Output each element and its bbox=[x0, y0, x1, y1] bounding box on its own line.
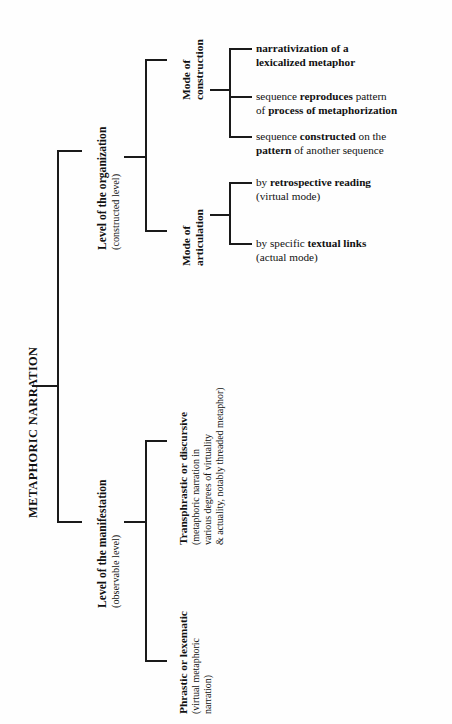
organization-stem-connector bbox=[124, 156, 146, 158]
leaf-4-l1b: retrospective reading bbox=[270, 176, 371, 188]
leaf-4-l2: (virtual mode) bbox=[256, 190, 320, 202]
leaf-2-l2a: of bbox=[256, 104, 268, 116]
transphrastic-sub1: (metaphoric narration in bbox=[190, 387, 202, 545]
node-transphrastic-or-discursive: Transphrastic or discursive (metaphoric … bbox=[177, 387, 226, 545]
leaf-3-l1b: constructed bbox=[300, 130, 356, 142]
mode-of-articulation-line2: articulation bbox=[193, 209, 206, 266]
level-of-manifestation-subtitle: (observable level) bbox=[110, 480, 122, 608]
phrastic-sub2: narration) bbox=[202, 611, 214, 714]
leaf-textual-links: by specific textual links (actual mode) bbox=[256, 236, 366, 265]
root-node-label: METAPHORIC NARRATION bbox=[26, 347, 41, 518]
level-of-manifestation-title: Level of the manifestation bbox=[96, 480, 110, 608]
leaf-narrativization-line1: narrativization of a bbox=[256, 42, 349, 54]
root-stem-connector bbox=[32, 385, 58, 387]
construction-arm-leaf-3 bbox=[229, 136, 252, 138]
manifestation-arm-to-transphrastic bbox=[145, 440, 167, 442]
organization-arm-to-articulation bbox=[145, 230, 167, 232]
leaf-retrospective-reading: by retrospective reading (virtual mode) bbox=[256, 175, 371, 204]
leaf-3-l1a: sequence bbox=[256, 130, 300, 142]
node-phrastic-or-lexematic: Phrastic or lexematic (virtual metaphori… bbox=[177, 611, 214, 714]
leaf-4-l1a: by bbox=[256, 176, 270, 188]
leaf-narrativization-line2: lexicalized metaphor bbox=[256, 56, 355, 68]
transphrastic-title: Transphrastic or discursive bbox=[177, 387, 190, 545]
manifestation-arm-to-phrastic bbox=[145, 660, 167, 662]
construction-bracket-vertical bbox=[229, 48, 231, 137]
articulation-bracket-vertical bbox=[229, 182, 231, 244]
root-bracket-vertical bbox=[57, 150, 59, 522]
leaf-2-l2b: process of metaphorization bbox=[268, 104, 397, 116]
organization-arm-to-construction bbox=[145, 59, 167, 61]
diagram-canvas: METAPHORIC NARRATION Level of the organi… bbox=[0, 0, 452, 724]
leaf-5-l2: (actual mode) bbox=[256, 251, 318, 263]
manifestation-bracket-vertical bbox=[145, 440, 147, 661]
node-level-of-organization: Level of the organization (constructed l… bbox=[96, 127, 122, 250]
transphrastic-sub3: & actuality, notably threaded metaphor) bbox=[214, 387, 226, 545]
leaf-sequence-constructed: sequence constructed on the pattern of a… bbox=[256, 129, 386, 158]
leaf-3-l2b: pattern bbox=[256, 144, 291, 156]
leaf-2-l1a: sequence bbox=[256, 90, 300, 102]
leaf-2-l1c: pattern bbox=[353, 90, 387, 102]
root-arm-to-organization bbox=[57, 150, 82, 152]
leaf-5-l1b: textual links bbox=[308, 237, 367, 249]
phrastic-title: Phrastic or lexematic bbox=[177, 611, 190, 714]
mode-of-construction-line2: construction bbox=[193, 39, 206, 100]
node-level-of-manifestation: Level of the manifestation (observable l… bbox=[96, 480, 122, 608]
construction-stem-connector bbox=[210, 89, 230, 91]
articulation-arm-leaf-1 bbox=[229, 182, 252, 184]
level-of-organization-subtitle: (constructed level) bbox=[110, 127, 122, 250]
construction-arm-leaf-1 bbox=[229, 48, 252, 50]
node-mode-of-articulation: Mode of articulation bbox=[180, 209, 207, 266]
leaf-3-l1c: on the bbox=[356, 130, 386, 142]
leaf-3-l2c: of another sequence bbox=[291, 144, 383, 156]
leaf-2-l1b: reproduces bbox=[300, 90, 353, 102]
leaf-5-l1a: by specific bbox=[256, 237, 308, 249]
node-mode-of-construction: Mode of construction bbox=[180, 39, 207, 100]
level-of-organization-title: Level of the organization bbox=[96, 127, 110, 250]
phrastic-sub1: (virtual metaphoric bbox=[190, 611, 202, 714]
construction-arm-leaf-2 bbox=[229, 96, 252, 98]
leaf-sequence-reproduces: sequence reproduces pattern of process o… bbox=[256, 89, 397, 118]
mode-of-construction-line1: Mode of bbox=[180, 39, 193, 100]
root-arm-to-manifestation bbox=[57, 521, 82, 523]
organization-bracket-vertical bbox=[145, 59, 147, 231]
articulation-arm-leaf-2 bbox=[229, 243, 252, 245]
articulation-stem-connector bbox=[210, 214, 230, 216]
manifestation-stem-connector bbox=[124, 521, 146, 523]
mode-of-articulation-line1: Mode of bbox=[180, 209, 193, 266]
transphrastic-sub2: various degrees of virtuality bbox=[202, 387, 214, 545]
leaf-narrativization: narrativization of a lexicalized metapho… bbox=[256, 41, 355, 70]
